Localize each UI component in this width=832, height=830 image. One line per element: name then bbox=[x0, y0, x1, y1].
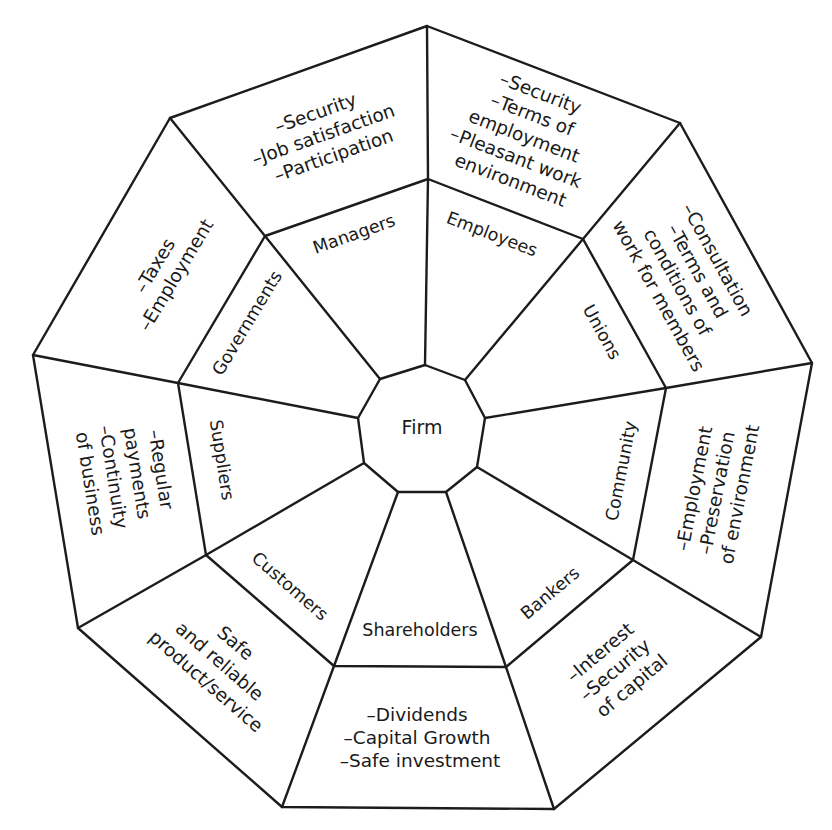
center-firm: Firm bbox=[402, 416, 443, 438]
wheel-svg: Firm Managers –Security –Job satisfactio… bbox=[0, 0, 832, 830]
interest-line: –Safe investment bbox=[340, 750, 501, 771]
firm-label: Firm bbox=[402, 416, 443, 438]
interest-line: –Capital Growth bbox=[344, 727, 491, 748]
interest-line: –Dividends bbox=[367, 704, 468, 725]
stakeholder-label-shareholders: Shareholders bbox=[362, 620, 477, 640]
stakeholder-wheel-diagram: Firm Managers –Security –Job satisfactio… bbox=[0, 0, 832, 830]
